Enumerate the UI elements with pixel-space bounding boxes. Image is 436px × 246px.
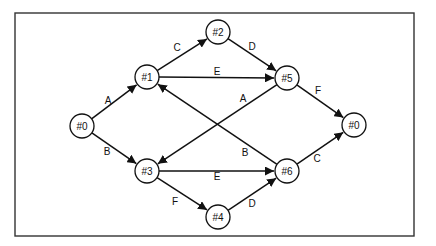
node-label: #2: [212, 27, 224, 38]
node-n6: #6: [275, 159, 299, 183]
node-label: #3: [141, 166, 153, 177]
node-n0b: #0: [342, 113, 366, 137]
edge-label: C: [313, 153, 320, 164]
node-label: #0: [76, 121, 88, 132]
edge-label: D: [248, 41, 255, 52]
node-n3: #3: [135, 159, 159, 183]
edge-n0a-n1: [92, 85, 137, 119]
edge-label: F: [172, 196, 178, 207]
edge-label: A: [105, 95, 112, 106]
network-diagram: ABCDEAFBEFDC #0#1#2#5#0#3#4#6: [0, 0, 436, 246]
edge-label: A: [240, 93, 247, 104]
node-n1: #1: [135, 65, 159, 89]
node-label: #4: [212, 212, 224, 223]
node-label: #1: [141, 72, 153, 83]
node-n5: #5: [275, 66, 299, 90]
edge-n3-n4: [157, 178, 207, 210]
edge-n1-n2: [157, 39, 207, 71]
edge-label: D: [248, 198, 255, 209]
node-n4: #4: [206, 205, 230, 229]
edge-label: E: [214, 66, 221, 77]
edge-label: C: [173, 42, 180, 53]
edge-label: E: [214, 171, 221, 182]
edge-label: B: [104, 146, 111, 157]
edge-label: B: [242, 147, 249, 158]
edge-n1-n5: [159, 77, 274, 78]
node-label: #6: [281, 166, 293, 177]
edge-n0a-n3: [92, 133, 136, 164]
edge-label: F: [315, 85, 321, 96]
node-label: #5: [281, 73, 293, 84]
edges-group: ABCDEAFBEFDC: [92, 39, 344, 211]
node-n2: #2: [206, 20, 230, 44]
node-label: #0: [348, 120, 360, 131]
node-n0a: #0: [70, 114, 94, 138]
